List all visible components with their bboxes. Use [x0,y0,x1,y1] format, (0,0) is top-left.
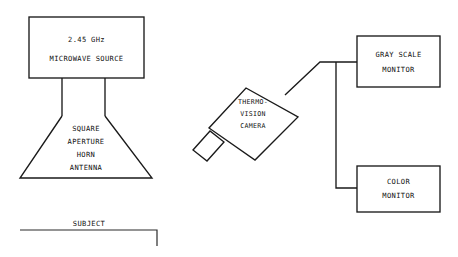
wire-camera-to-gray-scale-monitor [285,62,357,95]
gray-scale-monitor-label-line1: GRAY SCALE [375,50,421,59]
thermovision-camera-label-line1: THERMO- [238,98,268,106]
color-monitor-label-line1: COLOR [387,177,410,186]
horn-antenna-label-line3: HORN [77,150,95,159]
horn-antenna-label-line1: SQUARE [72,124,100,133]
subject-outline [20,230,157,246]
microwave-source-frequency-label: 2.45 GHz [68,35,105,44]
block-diagram: 2.45 GHz MICROWAVE SOURCE SQUARE APERTUR… [0,0,458,257]
microwave-source-name-label: MICROWAVE SOURCE [50,54,124,63]
horn-antenna-label-line2: APERTURE [68,137,105,146]
diagram-canvas: 2.45 GHz MICROWAVE SOURCE SQUARE APERTUR… [0,0,458,257]
gray-scale-monitor-label-line2: MONITOR [382,65,415,74]
thermovision-camera-label-line2: VISION [240,110,266,118]
thermovision-camera-label-line3: CAMERA [240,122,266,130]
wire-branch-to-color-monitor [336,62,357,188]
microwave-source-box [29,17,144,78]
color-monitor-label-line2: MONITOR [382,191,415,200]
horn-antenna-label-line4: ANTENNA [70,163,103,172]
color-monitor-box [357,166,440,212]
gray-scale-monitor-box [357,36,440,87]
subject-label: SUBJECT [73,219,106,228]
